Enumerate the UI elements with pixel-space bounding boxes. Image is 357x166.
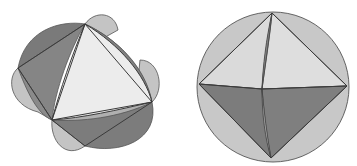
- right-figure-octahedron-in-sphere: [197, 12, 349, 162]
- left-figure-curved-polyhedron: [12, 15, 160, 151]
- diagram-canvas: [0, 0, 357, 166]
